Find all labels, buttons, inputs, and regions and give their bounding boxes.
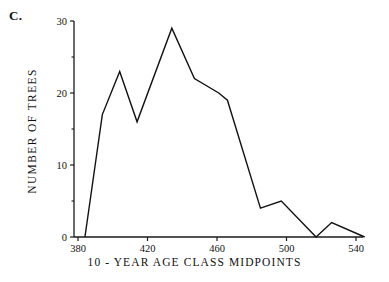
axes <box>74 21 363 237</box>
y-axis-title: NUMBER OF TREES <box>26 36 38 226</box>
figure-panel-c: C. NUMBER OF TREES 10 - YEAR AGE CLASS M… <box>0 0 389 282</box>
data-series-group <box>85 28 365 237</box>
x-axis-ticks: 380420460500540 <box>70 237 364 254</box>
panel-label: C. <box>9 9 22 22</box>
y-tick-label: 30 <box>57 16 68 27</box>
y-tick-label: 10 <box>57 160 68 171</box>
x-tick-label: 420 <box>140 243 156 254</box>
data-line-number-of-trees <box>85 28 365 237</box>
x-tick-label: 500 <box>279 243 295 254</box>
x-tick-label: 540 <box>348 243 364 254</box>
x-tick-label: 460 <box>209 243 225 254</box>
y-tick-label: 0 <box>62 232 67 243</box>
line-chart-svg: 0102030 380420460500540 <box>0 0 389 282</box>
x-tick-label: 380 <box>70 243 86 254</box>
y-tick-label: 20 <box>57 88 68 99</box>
x-axis-title: 10 - YEAR AGE CLASS MIDPOINTS <box>0 256 389 268</box>
y-axis-ticks: 0102030 <box>57 16 75 243</box>
